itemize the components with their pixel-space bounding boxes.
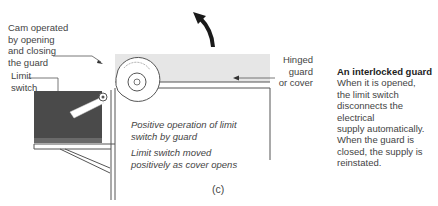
cam-label: Cam operated by opening and closing the … — [8, 22, 68, 68]
opening-arrow-icon — [200, 18, 213, 47]
caption-title: An interlocked guard — [337, 66, 438, 77]
limit-switch-label: Limit switch — [11, 70, 37, 93]
caption: An interlocked guard When it is opened, … — [337, 66, 438, 169]
switch-moved-label: Limit switch moved positively as cover o… — [131, 147, 237, 170]
cam-icon — [116, 57, 160, 101]
panel-label: (c) — [212, 184, 224, 196]
limit-switch-box — [34, 91, 102, 143]
hinged-guard-label: Hinged guard or cover — [270, 54, 313, 89]
positive-operation-label: Positive operation of limit switch by gu… — [131, 119, 237, 142]
